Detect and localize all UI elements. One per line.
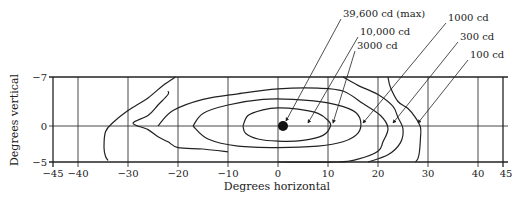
x-tick-label: 20 (372, 168, 385, 179)
y-tick-label: 0 (41, 121, 47, 132)
x-tick-label: 30 (422, 168, 435, 179)
y-tick-label: −5 (32, 157, 47, 168)
annotation-leader (286, 19, 341, 121)
annotation-label: 300 cd (460, 31, 495, 42)
y-tick-label: −7 (32, 72, 47, 83)
annotation-leader (418, 60, 468, 123)
contour-3000-cd (193, 99, 361, 148)
contour-300-cd (343, 77, 403, 162)
x-tick-label: 45 (500, 168, 513, 179)
max-intensity-point (278, 121, 288, 131)
x-tick-label: −45 (42, 168, 63, 179)
tick-labels: −45−40−30−20−1001020304045−70−5 (32, 72, 512, 179)
annotation-label: 100 cd (470, 49, 505, 60)
annotation-leader (308, 37, 358, 123)
isocandela-chart: 39,600 cd (max)10,000 cd3000 cd1000 cd30… (0, 0, 528, 206)
annotation-leader (393, 42, 458, 123)
x-tick-label: −40 (67, 168, 88, 179)
grid (49, 77, 508, 167)
y-axis-label: Degrees vertical (8, 74, 21, 166)
x-tick-label: −30 (117, 168, 138, 179)
annotation-leaders: 39,600 cd (max)10,000 cd3000 cd1000 cd30… (286, 8, 505, 123)
contours (104, 77, 421, 162)
annotation-label: 39,600 cd (max) (343, 8, 425, 19)
contour-300-cd (133, 91, 228, 152)
annotation-label: 10,000 cd (360, 26, 411, 37)
x-axis-label: Degrees horizontal (224, 180, 331, 193)
x-tick-label: −20 (167, 168, 188, 179)
x-tick-label: −10 (217, 168, 238, 179)
annotation-label: 1000 cd (448, 12, 489, 23)
x-tick-label: 40 (472, 168, 485, 179)
annotation-label: 3000 cd (357, 40, 398, 51)
x-tick-label: 10 (322, 168, 335, 179)
contour-100-cd (388, 77, 421, 162)
x-tick-label: 0 (275, 168, 281, 179)
